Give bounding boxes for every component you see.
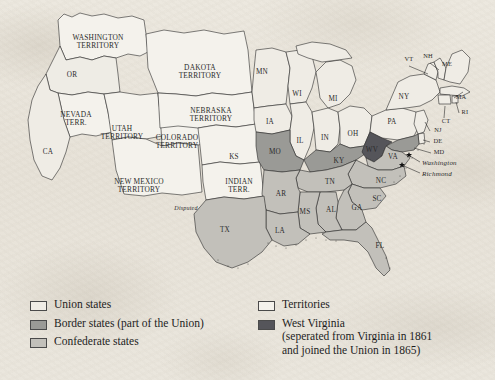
legend-swatch-union-states [30,301,47,311]
map-label-wi: WI [292,90,302,98]
legend-item-west-virginia: West Virginia(seperated from Virginia in… [258,317,432,358]
map-city-label-richmond: Richmond [421,170,452,178]
civil-war-map: WASHINGTONTERRITORYDAKOTATERRITORYNEBRAS… [0,0,495,290]
map-label-ks: KS [229,153,239,161]
legend-swatch-border-states [30,320,47,330]
map-label-or: OR [67,71,77,79]
map-label-mn: MN [256,68,269,76]
map-label-tx: TX [220,226,231,234]
map-label-ct: CT [442,117,451,124]
legend-label-territories: Territories [282,298,330,312]
map-label-utah-territory: TERRITORY [101,132,144,141]
legend-sublabel-west-virginia-0: (seperated from Virginia in 1861 [282,330,432,344]
map-label-ga: GA [352,204,363,212]
map-label-in: IN [321,134,330,142]
legend-item-territories: Territories [258,298,432,312]
legend-swatch-confederate-states [30,338,47,348]
map-label-nc: NC [376,177,386,185]
leader-line-ct [444,106,445,118]
map-label-pa: PA [388,118,398,126]
leader-line-ri [456,102,459,113]
legend-sublabel-west-virginia-1: and joined the Union in 1865) [282,344,432,358]
map-label-nj: NJ [434,126,442,133]
legend-item-confederate-states: Confederate states [30,335,204,349]
map-label-ri: RI [462,108,469,115]
map-label-de: DE [434,137,443,144]
map-label-ia: IA [266,118,275,126]
map-label-ny: NY [399,93,410,101]
legend-item-union-states: Union states [30,298,204,312]
legend-right-column: TerritoriesWest Virginia(seperated from … [258,298,432,362]
map-label-va: VA [388,153,398,161]
map-label-ca: CA [43,148,54,156]
state-shape-connecticut [438,95,451,104]
legend-label-west-virginia: West Virginia [282,317,432,331]
map-annotation-disputed: Disputed [173,205,198,211]
map-label-ky: KY [334,157,345,165]
map-label-nevada-territory: TERR. [65,118,87,127]
map-label-new-mexico-territory: TERRITORY [118,185,161,194]
leader-line-md [414,148,431,153]
map-label-sc: SC [372,195,381,203]
legend-swatch-territories [258,301,275,311]
map-label-tn: TN [325,178,336,186]
map-label-il: IL [296,137,303,145]
map-label-me: ME [442,60,452,67]
legend-label-union-states: Union states [54,298,111,312]
map-label-al: AL [326,206,336,214]
state-shape-new-york [386,74,440,110]
map-label-nh: NH [423,52,433,59]
map-label-md: MD [434,148,445,155]
map-label-indian-territory: TERR. [228,185,250,194]
state-shape-indiana [312,108,340,152]
map-label-oh: OH [348,130,359,138]
legend-swatch-west-virginia [258,320,275,330]
leader-line-richmond [404,166,420,173]
map-label-washington-territory: TERRITORY [77,41,120,50]
map-city-label-washington: Washington [422,159,457,167]
map-label-dakota-territory: TERRITORY [179,71,222,80]
map-label-ar: AR [276,190,286,198]
legend-label-border-states: Border states (part of the Union) [54,317,204,331]
map-label-nebraska-territory: TERRITORY [190,114,233,123]
map-label-ms: MS [300,208,311,216]
state-shape-texas [194,196,272,268]
map-label-fl: FL [376,242,385,250]
map-svg: WASHINGTONTERRITORYDAKOTATERRITORYNEBRAS… [0,0,495,290]
legend-label-confederate-states: Confederate states [54,335,139,349]
legend-item-border-states: Border states (part of the Union) [30,317,204,331]
map-label-wv: WV [366,146,379,154]
annotation-group: Disputed [173,205,198,211]
map-label-mo: MO [269,148,281,156]
map-label-ma: MA [456,93,467,100]
map-label-la: LA [275,227,286,235]
state-shape-minnesota [252,48,290,108]
map-legend: Union statesBorder states (part of the U… [0,292,495,380]
leader-line-vt [409,66,428,74]
leader-line-washington [410,156,420,162]
map-label-mi: MI [328,95,338,103]
city-label-group: WashingtonRichmond [421,159,457,178]
legend-left-column: Union statesBorder states (part of the U… [30,298,204,354]
map-label-colorado-territory: TERRITORY [156,141,199,150]
map-label-vt: VT [405,55,414,62]
